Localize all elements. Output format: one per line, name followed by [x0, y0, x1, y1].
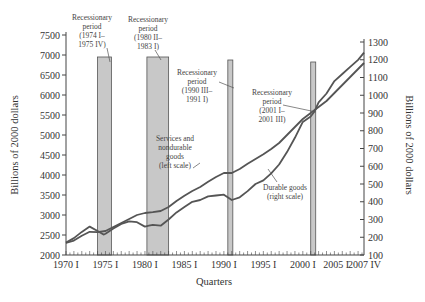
y-axis-right-title: Billions of 2000 dollars — [404, 95, 415, 194]
y-right-tick-label: 200 — [368, 232, 383, 243]
services-label: goods — [166, 152, 184, 161]
y-right-tick-label: 1100 — [368, 72, 388, 83]
recession-bar — [98, 57, 112, 255]
y-right-tick-label: 1300 — [368, 37, 388, 48]
y-left-tick-label: 4000 — [40, 170, 60, 181]
x-axis-title: Quarters — [196, 276, 232, 287]
axes: 2000250030003500400045005000550060006500… — [40, 30, 388, 271]
recession-label-2001: period — [262, 97, 281, 106]
durable-label: Durable goods — [263, 183, 307, 192]
recession-label-2001: Recessionary — [252, 88, 292, 97]
y-left-tick-label: 6000 — [40, 90, 60, 101]
x-tick-label: 2007 IV — [348, 259, 382, 270]
recession-label-1980: (1980 II– — [134, 33, 162, 42]
recession-label-1990: Recessionary — [177, 68, 217, 77]
y-right-tick-label: 1000 — [368, 90, 388, 101]
y-right-tick-label: 600 — [368, 161, 383, 172]
y-left-tick-label: 5000 — [40, 130, 60, 141]
services-label: (left scale) — [159, 161, 191, 170]
y-right-tick-label: 1200 — [368, 54, 388, 65]
y-left-tick-label: 7000 — [40, 50, 60, 61]
y-right-tick-label: 900 — [368, 108, 383, 119]
y-left-tick-label: 4500 — [40, 150, 60, 161]
x-tick-label: 2000 I — [290, 259, 316, 270]
y-left-tick-label: 2500 — [40, 230, 60, 241]
y-left-tick-label: 3500 — [40, 190, 60, 201]
durable-label: (right scale) — [267, 192, 304, 201]
y-left-tick-label: 6500 — [40, 70, 60, 81]
recession-label-1980: Recessionary — [128, 15, 168, 24]
recession-label-1974: 1975 IV) — [78, 40, 106, 49]
recession-bar — [228, 60, 233, 255]
x-tick-label: 1995 I — [250, 259, 276, 270]
services-label: Services and — [156, 134, 194, 143]
recession-bar — [311, 62, 316, 255]
recession-label-1974: (1974 I– — [79, 31, 105, 40]
y-right-tick-label: 800 — [368, 125, 383, 136]
recession-label-2001: 2001 III) — [259, 115, 286, 124]
y-left-tick-label: 3000 — [40, 210, 60, 221]
x-tick-label: 1980 I — [132, 259, 158, 270]
y-right-tick-label: 500 — [368, 179, 383, 190]
x-tick-label: 1975 I — [93, 259, 119, 270]
x-tick-label: 1990 I — [211, 259, 237, 270]
y-right-tick-label: 400 — [368, 196, 383, 207]
recession-label-1980: period — [138, 24, 157, 33]
recession-label-1990: (1990 III– — [182, 86, 213, 95]
y-axis-left-title: Billions of 2000 dollars — [9, 95, 20, 194]
y-right-tick-label: 300 — [368, 214, 383, 225]
recession-label-1980: 1983 I) — [137, 42, 159, 51]
x-tick-label: 1970 I — [53, 259, 79, 270]
recession-label-1990: period — [187, 77, 206, 86]
services-label: nondurable — [158, 143, 192, 152]
leader-line — [193, 163, 200, 168]
y-left-tick-label: 5500 — [40, 110, 60, 121]
y-left-tick-label: 7500 — [40, 30, 60, 41]
y-right-tick-label: 700 — [368, 143, 383, 154]
recession-label-1974: Recessionary — [72, 13, 112, 22]
recession-label-1990: 1991 I) — [186, 95, 208, 104]
x-tick-label: 2005 I — [323, 259, 349, 270]
recession-label-1974: period — [82, 22, 101, 31]
recession-label-2001: (2001 I– — [259, 106, 285, 115]
x-tick-label: 1985 I — [171, 259, 197, 270]
consumption-chart: 2000250030003500400045005000550060006500… — [0, 0, 425, 302]
